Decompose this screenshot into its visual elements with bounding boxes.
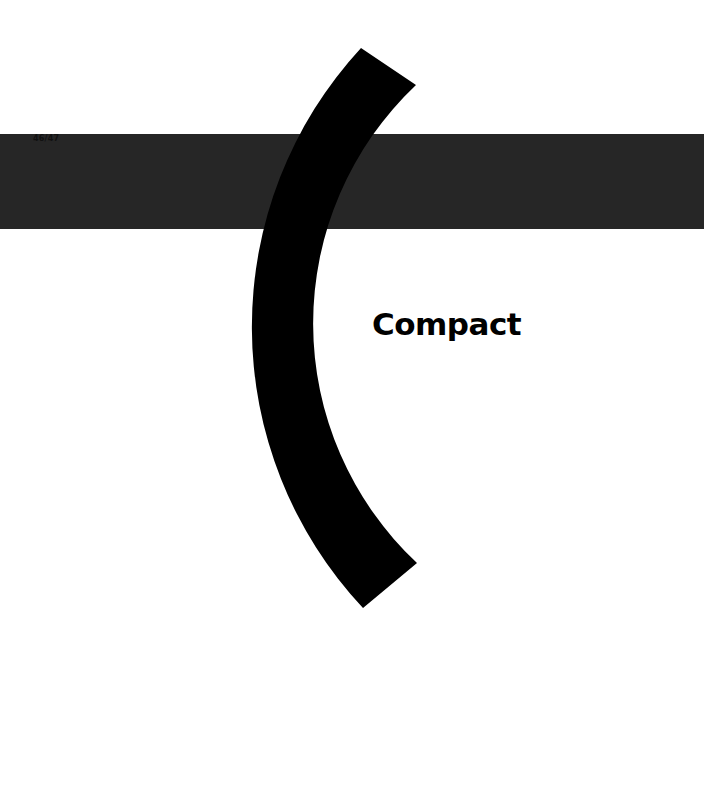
parenthesis-arc-graphic [0, 0, 704, 790]
page-title: Compact [372, 302, 521, 346]
